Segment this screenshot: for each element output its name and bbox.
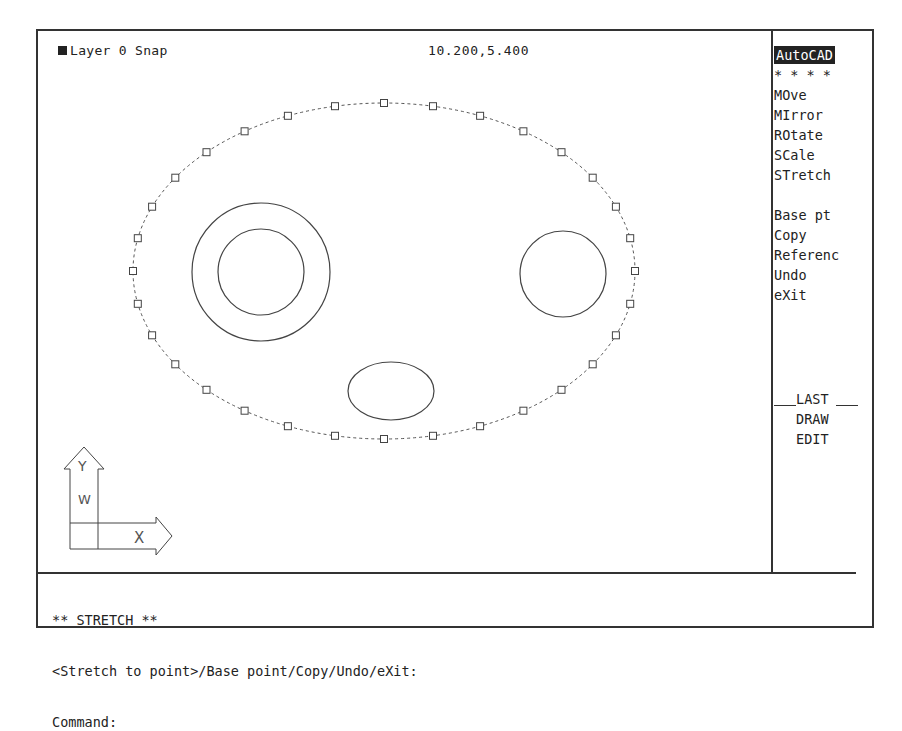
menu-item-mirror[interactable]: MIrror <box>774 105 870 125</box>
grip-handle[interactable] <box>632 268 639 275</box>
command-prompt-line: <Stretch to point>/Base point/Copy/Undo/… <box>52 663 418 680</box>
menu-footer-last[interactable]: LAST <box>774 389 864 409</box>
grip-handle[interactable] <box>284 423 291 430</box>
grip-handle[interactable] <box>203 149 210 156</box>
grip-handle[interactable] <box>612 332 619 339</box>
grip-handle[interactable] <box>477 423 484 430</box>
grip-handle[interactable] <box>149 332 156 339</box>
grip-handle[interactable] <box>172 361 179 368</box>
grip-handle[interactable] <box>381 436 388 443</box>
grip-handle[interactable] <box>589 174 596 181</box>
command-history-line: ** STRETCH ** <box>52 612 418 629</box>
left-inner-circle[interactable] <box>218 229 304 315</box>
grip-handle[interactable] <box>149 203 156 210</box>
screen-menu-footer: LAST DRAW EDIT <box>774 389 864 449</box>
grip-handle[interactable] <box>130 268 137 275</box>
ucs-x-label: X <box>134 529 144 547</box>
grip-handle[interactable] <box>627 235 634 242</box>
grip-handle[interactable] <box>520 128 527 135</box>
grip-handle[interactable] <box>172 174 179 181</box>
menu-item-scale[interactable]: SCale <box>774 145 870 165</box>
grip-handle[interactable] <box>332 432 339 439</box>
ucs-w-label: W <box>78 492 91 507</box>
grip-handle[interactable] <box>381 100 388 107</box>
grip-handle[interactable] <box>134 235 141 242</box>
command-area-divider <box>38 572 856 574</box>
drawing-canvas[interactable]: Y W X <box>38 31 771 572</box>
menu-item-stretch[interactable]: STretch <box>774 165 870 185</box>
menu-option-reference[interactable]: Referenc <box>774 245 870 265</box>
command-area[interactable]: ** STRETCH ** <Stretch to point>/Base po… <box>52 578 418 731</box>
command-input-line[interactable]: Command: <box>52 714 418 731</box>
grip-handle[interactable] <box>520 407 527 414</box>
screen-menu-divider <box>771 31 773 572</box>
menu-option-undo[interactable]: Undo <box>774 265 870 285</box>
screen-menu: AutoCAD * * * * MOve MIrror ROtate SCale… <box>774 45 870 305</box>
grip-handle[interactable] <box>589 361 596 368</box>
outline-ellipse[interactable] <box>130 100 639 443</box>
menu-option-copy[interactable]: Copy <box>774 225 870 245</box>
menu-gap <box>774 185 870 205</box>
grip-handle[interactable] <box>241 407 248 414</box>
grip-handle[interactable] <box>558 149 565 156</box>
grip-handle[interactable] <box>477 112 484 119</box>
menu-item-rotate[interactable]: ROtate <box>774 125 870 145</box>
grip-handle[interactable] <box>627 300 634 307</box>
ucs-y-label: Y <box>77 458 87 474</box>
menu-option-exit[interactable]: eXit <box>774 285 870 305</box>
grip-handle[interactable] <box>332 103 339 110</box>
menu-footer-draw[interactable]: DRAW <box>774 409 864 429</box>
bottom-ellipse[interactable] <box>348 362 434 420</box>
grip-handle[interactable] <box>241 128 248 135</box>
grip-handle[interactable] <box>558 386 565 393</box>
menu-item-move[interactable]: MOve <box>774 85 870 105</box>
grip-handle[interactable] <box>430 103 437 110</box>
right-circle[interactable] <box>520 231 606 317</box>
menu-footer-edit[interactable]: EDIT <box>774 429 864 449</box>
grip-handle[interactable] <box>284 112 291 119</box>
menu-title-autocad[interactable]: AutoCAD <box>774 46 835 64</box>
grip-handle[interactable] <box>430 432 437 439</box>
drawing-window: Layer 0 Snap 10.200,5.400 Y W X AutoCAD … <box>36 29 874 628</box>
grip-handle[interactable] <box>203 386 210 393</box>
grip-handle[interactable] <box>612 203 619 210</box>
grip-handle[interactable] <box>134 300 141 307</box>
menu-option-base-pt[interactable]: Base pt <box>774 205 870 225</box>
menu-separator[interactable]: * * * * <box>774 65 870 85</box>
left-outer-circle[interactable] <box>192 203 330 341</box>
